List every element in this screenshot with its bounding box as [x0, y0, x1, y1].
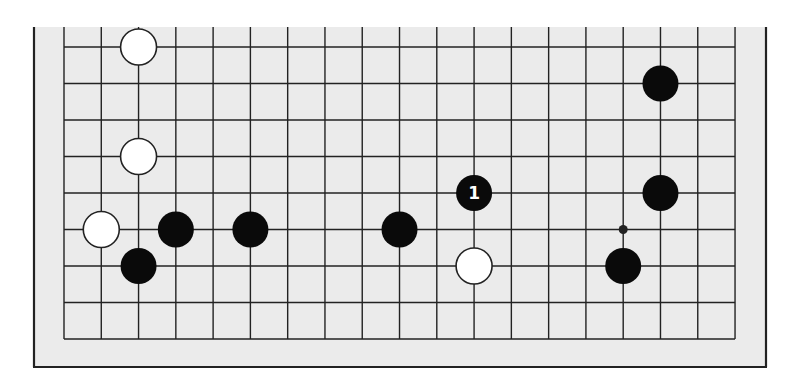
star-point-icon	[619, 225, 628, 234]
white-stone	[83, 212, 119, 248]
black-stone-icon	[382, 212, 418, 248]
black-stone	[642, 175, 678, 211]
star-points	[619, 225, 628, 234]
white-stone-icon	[456, 248, 492, 284]
white-stone-icon	[83, 212, 119, 248]
black-stone-icon	[642, 175, 678, 211]
white-stone	[121, 139, 157, 175]
black-stone-icon	[642, 66, 678, 102]
black-stone	[382, 212, 418, 248]
black-stone	[605, 248, 641, 284]
move-number-label: 1	[468, 183, 480, 203]
go-board-diagram: 1	[0, 0, 791, 372]
black-stone-icon	[158, 212, 194, 248]
white-stone-icon	[121, 139, 157, 175]
white-stone-icon	[121, 29, 157, 65]
black-stone	[121, 248, 157, 284]
black-stone	[232, 212, 268, 248]
white-stone	[121, 29, 157, 65]
black-stone	[642, 66, 678, 102]
black-stone-icon	[605, 248, 641, 284]
black-stone: 1	[456, 175, 492, 211]
black-stone-icon	[121, 248, 157, 284]
black-stone	[158, 212, 194, 248]
black-stone-icon	[232, 212, 268, 248]
white-stone	[456, 248, 492, 284]
go-board: 1	[0, 0, 791, 372]
